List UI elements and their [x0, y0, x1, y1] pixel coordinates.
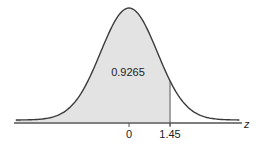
shaded-area — [16, 8, 170, 122]
normal-curve-chart: 01.45 0.9265 z — [0, 0, 258, 145]
axis-ticks: 01.45 — [126, 123, 181, 140]
area-label: 0.9265 — [111, 66, 145, 78]
tick-label: 0 — [126, 128, 132, 140]
tick-label: 1.45 — [159, 128, 180, 140]
axis-label-z: z — [243, 118, 250, 130]
